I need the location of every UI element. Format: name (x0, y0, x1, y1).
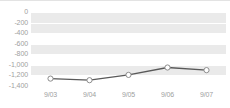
x-axis-tick-label: 9/07 (200, 90, 213, 99)
x-axis-tick-labels: 9/039/049/059/069/07 (31, 90, 226, 104)
data-point-marker[interactable] (87, 78, 92, 83)
data-point-marker[interactable] (204, 68, 209, 73)
y-axis-tick-labels: 0-200-400-600-800-1,000-1,200-1,400 (0, 8, 30, 86)
y-axis-tick-label: -600 (14, 40, 28, 48)
data-point-marker[interactable] (165, 65, 170, 70)
top-divider (0, 0, 230, 1)
data-series-line (31, 12, 226, 86)
y-axis-tick-label: -200 (14, 19, 28, 27)
y-axis-tick-label: -1,400 (9, 82, 28, 90)
line-chart-widget: 0-200-400-600-800-1,000-1,200-1,400 9/03… (0, 0, 230, 108)
y-axis-tick-label: -400 (14, 29, 28, 37)
y-axis-tick-label: 0 (24, 8, 28, 16)
x-axis-tick-label: 9/06 (161, 90, 174, 99)
y-axis-tick-label: -1,200 (9, 71, 28, 79)
x-axis-tick-label: 9/05 (122, 90, 135, 99)
x-axis-tick-label: 9/03 (44, 90, 57, 99)
data-point-marker[interactable] (126, 72, 131, 77)
plot-area (31, 12, 226, 86)
y-axis-tick-label: -800 (14, 50, 28, 58)
x-axis-tick-label: 9/04 (83, 90, 96, 99)
y-axis-tick-label: -1,000 (9, 61, 28, 69)
data-point-marker[interactable] (48, 76, 53, 81)
